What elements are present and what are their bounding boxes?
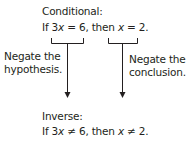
conclusion-bracket <box>109 38 138 44</box>
left-branch-label-line1: Negate the <box>4 50 61 62</box>
inverse-if: If 3 <box>42 125 58 137</box>
inverse-statement: If 3x ≠ 6, then x ≠ 2. <box>42 125 148 137</box>
inverse-label: Inverse: <box>42 110 83 122</box>
hypothesis-bracket <box>52 38 84 44</box>
right-branch-label-line2: conclusion. <box>129 66 186 78</box>
left-branch-label-line2: hypothesis. <box>4 63 62 75</box>
inverse-conclusion-rest: ≠ 2. <box>124 125 149 137</box>
conclusion-arrowhead-icon <box>120 92 126 98</box>
hypothesis-arrowhead-icon <box>65 92 71 98</box>
inverse-hypothesis-rest: ≠ 6, then <box>64 125 118 137</box>
right-branch-label-line1: Negate the <box>129 53 186 65</box>
